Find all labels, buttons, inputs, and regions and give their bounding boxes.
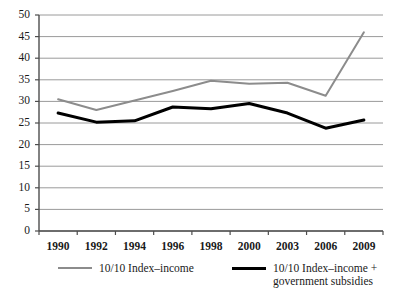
series-line-0 xyxy=(58,32,364,110)
legend-label: 10/10 Index–income + government subsidie… xyxy=(273,262,377,288)
black-line-swatch-icon xyxy=(232,267,266,270)
chart-legend: 10/10 Index–income 10/10 Index–income + … xyxy=(0,258,408,300)
x-tick-label: 1992 xyxy=(77,241,115,253)
x-tick-label: 2000 xyxy=(230,241,268,253)
y-tick-label: 5 xyxy=(4,203,30,215)
y-tick-label: 0 xyxy=(4,225,30,237)
gray-line-swatch-icon xyxy=(58,267,92,269)
x-tick-label: 2003 xyxy=(268,241,306,253)
x-tick-label: 1994 xyxy=(115,241,153,253)
legend-item-index-income[interactable]: 10/10 Index–income xyxy=(58,262,194,275)
x-tick-label: 2006 xyxy=(307,241,345,253)
y-tick-label: 10 xyxy=(4,182,30,194)
plot-area xyxy=(0,0,408,260)
x-tick-label: 1998 xyxy=(192,241,230,253)
y-tick-label: 50 xyxy=(4,9,30,21)
y-tick-label: 45 xyxy=(4,31,30,43)
legend-label: 10/10 Index–income xyxy=(99,262,194,275)
x-tick-label: 1996 xyxy=(154,241,192,253)
legend-item-index-income-plus-subsidies[interactable]: 10/10 Index–income + government subsidie… xyxy=(232,262,377,288)
x-tick-label: 2009 xyxy=(345,241,383,253)
y-tick-label: 30 xyxy=(4,95,30,107)
y-tick-label: 20 xyxy=(4,139,30,151)
y-tick-label: 35 xyxy=(4,74,30,86)
line-chart: 50454035302520151050 1990199219941996199… xyxy=(0,0,408,300)
x-tick-label: 1990 xyxy=(39,241,77,253)
y-tick-label: 15 xyxy=(4,160,30,172)
y-tick-label: 40 xyxy=(4,52,30,64)
y-tick-label: 25 xyxy=(4,117,30,129)
